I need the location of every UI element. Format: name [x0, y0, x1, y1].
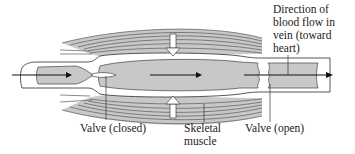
label-flow-direction: Direction of blood flow in vein (toward …: [273, 3, 335, 55]
label-skeletal-muscle: Skeletal muscle: [184, 122, 221, 148]
valve-closed-shape: [92, 73, 116, 78]
label-valve-open: Valve (open): [245, 122, 304, 135]
label-valve-closed: Valve (closed): [80, 122, 146, 135]
lower-muscle-bundle: [60, 94, 262, 125]
